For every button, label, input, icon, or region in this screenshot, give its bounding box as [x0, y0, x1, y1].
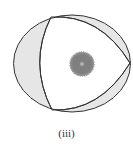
center-gear-icon — [70, 52, 94, 76]
ellipse-diagram — [0, 0, 133, 146]
figure-caption: (iii) — [0, 127, 133, 139]
